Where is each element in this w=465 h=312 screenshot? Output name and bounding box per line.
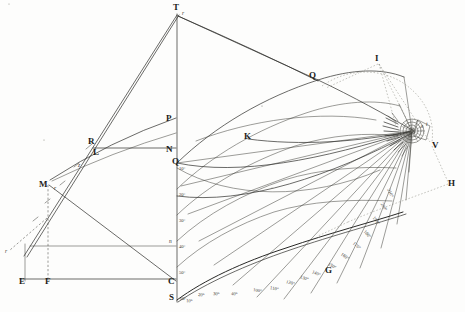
- point-label-F: F: [45, 277, 51, 286]
- degree-label-arc-2: 30°: [213, 292, 220, 297]
- degree-label-left-20: 20°: [179, 193, 185, 198]
- point-label-S: S: [169, 293, 174, 302]
- small-label-r-lower: r: [5, 249, 7, 255]
- degree-label-left-10: 10°: [179, 167, 185, 172]
- small-label-t: t: [426, 122, 428, 128]
- engraving-specks: [8, 3, 272, 188]
- degree-label-left-40: 40°: [179, 245, 185, 250]
- point-label-Q-lower: Q: [172, 157, 179, 166]
- point-label-T: T: [173, 3, 179, 12]
- point-label-C: C: [168, 277, 175, 286]
- arc-M-to-P: [50, 118, 176, 180]
- point-label-N: N: [166, 145, 173, 154]
- point-label-E: E: [19, 277, 25, 286]
- degree-label-arc-1: 20°: [198, 293, 205, 298]
- degree-label-left-50: 50°: [179, 271, 185, 276]
- diagram-canvas: [0, 0, 465, 312]
- point-label-K: K: [244, 132, 251, 141]
- radius-C-to-M: [49, 185, 176, 281]
- point-label-P: P: [166, 114, 172, 123]
- small-label-r-apex: r: [182, 11, 184, 17]
- point-label-Q-upper: Q: [309, 71, 316, 80]
- tangent-line-pair: [24, 15, 179, 257]
- degree-label-arc-3: 40°: [231, 292, 238, 297]
- degree-label-left-30: 30°: [179, 219, 185, 224]
- point-label-I: I: [375, 54, 379, 63]
- point-label-V: V: [432, 141, 439, 150]
- degree-label-arc-0: 10°: [186, 299, 193, 304]
- point-label-R: R: [88, 137, 95, 146]
- point-label-L: L: [93, 148, 99, 157]
- point-label-H: H: [448, 179, 455, 188]
- small-label-s: s: [421, 124, 423, 130]
- oblique-great-circles: [177, 80, 412, 198]
- small-label-z: z: [78, 163, 80, 169]
- graticule-parallels: [177, 71, 406, 302]
- point-label-M: M: [39, 180, 48, 189]
- engraved-plate: T P N Q C S E F M L R K Q I V H G r t s …: [0, 0, 465, 312]
- small-label-r-M: r: [54, 186, 56, 192]
- arc-M-to-N: [52, 133, 176, 181]
- small-label-n: n: [169, 239, 172, 245]
